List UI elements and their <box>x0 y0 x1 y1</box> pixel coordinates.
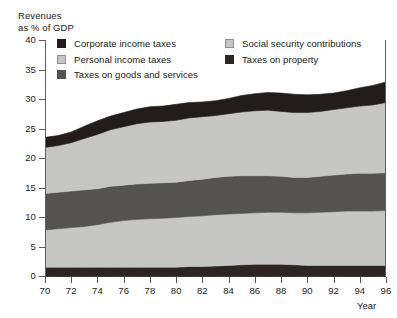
x-axis-tick-label: 82 <box>190 285 214 296</box>
x-axis-tick-label: 70 <box>33 285 57 296</box>
x-axis-title: Year <box>357 300 376 311</box>
y-axis-line <box>45 40 46 277</box>
y-axis-tick-label: 15 <box>0 183 36 193</box>
y-axis-tick-label: 20 <box>0 153 36 163</box>
y-axis-tick <box>39 217 45 218</box>
x-axis-tick-label: 74 <box>85 285 109 296</box>
y-axis-label-wrap: 15 <box>0 183 36 193</box>
x-axis-tick-label: 90 <box>295 285 319 296</box>
x-axis-tick <box>202 277 203 283</box>
y-axis-tick-label: 5 <box>0 242 36 252</box>
x-axis-tick <box>71 277 72 283</box>
x-axis-tick <box>255 277 256 283</box>
x-axis-tick <box>386 277 387 283</box>
y-axis-tick <box>39 188 45 189</box>
y-axis-tick <box>39 129 45 130</box>
x-axis-tick-label: 80 <box>164 285 188 296</box>
x-axis-tick <box>334 277 335 283</box>
x-axis-tick-label: 76 <box>112 285 136 296</box>
stacked-area-plot <box>45 40 386 276</box>
y-axis-tick-label: 30 <box>0 94 36 104</box>
x-axis-tick-label: 72 <box>59 285 83 296</box>
x-axis-tick <box>176 277 177 283</box>
y-axis-tick <box>39 70 45 71</box>
x-axis-tick <box>307 277 308 283</box>
x-axis-tick-label: 84 <box>217 285 241 296</box>
x-axis-tick-label: 86 <box>243 285 267 296</box>
x-axis-tick-label: 94 <box>348 285 372 296</box>
plot-area <box>45 40 386 276</box>
x-axis-tick <box>229 277 230 283</box>
y-axis-tick <box>39 247 45 248</box>
y-axis-label-wrap: 40 <box>0 35 36 45</box>
y-axis-title: Revenues as % of GDP <box>18 10 74 34</box>
x-axis-tick <box>150 277 151 283</box>
y-axis-tick-label: 25 <box>0 124 36 134</box>
tax-revenue-composition-chart: Revenues as % of GDP Corporate income ta… <box>0 0 397 318</box>
y-axis-tick-label: 40 <box>0 35 36 45</box>
x-axis-tick-label: 92 <box>322 285 346 296</box>
y-axis-label-wrap: 0 <box>0 271 36 281</box>
plot-right-border <box>385 40 386 277</box>
y-axis-tick-label: 10 <box>0 212 36 222</box>
x-axis-tick <box>97 277 98 283</box>
y-axis-tick-label: 35 <box>0 65 36 75</box>
y-axis-label-wrap: 30 <box>0 94 36 104</box>
y-axis-tick <box>39 40 45 41</box>
x-axis-line <box>45 276 386 277</box>
y-axis-tick <box>39 158 45 159</box>
y-axis-label-wrap: 10 <box>0 212 36 222</box>
x-axis-tick <box>45 277 46 283</box>
x-axis-tick-label: 78 <box>138 285 162 296</box>
y-axis-tick-label: 0 <box>0 271 36 281</box>
y-axis-label-wrap: 35 <box>0 65 36 75</box>
y-axis-tick <box>39 99 45 100</box>
x-axis-tick <box>281 277 282 283</box>
x-axis-tick <box>360 277 361 283</box>
x-axis-tick-label: 88 <box>269 285 293 296</box>
x-axis-tick <box>124 277 125 283</box>
y-axis-label-wrap: 25 <box>0 124 36 134</box>
y-axis-label-wrap: 5 <box>0 242 36 252</box>
y-axis-label-wrap: 20 <box>0 153 36 163</box>
x-axis-tick-label: 96 <box>374 285 397 296</box>
